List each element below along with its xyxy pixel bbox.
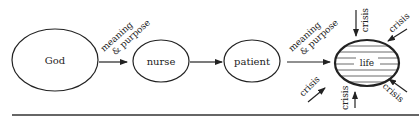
node-god: God [12, 29, 98, 91]
node-nurse: nurse [133, 40, 189, 82]
node-nurse-label: nurse [147, 56, 176, 67]
node-god-label: God [45, 55, 66, 66]
crisis-top-right: crisis [387, 11, 412, 41]
crisis-bottom: crisis [340, 85, 355, 110]
node-patient-label: patient [234, 56, 270, 67]
crisis-label: crisis [360, 8, 370, 33]
crisis-label: crisis [297, 74, 322, 99]
edge-label-patient-life: meaning & purpose [287, 10, 340, 61]
node-life-label: life [360, 58, 374, 68]
diagram-canvas: God meaning & purpose nurse patient mean… [0, 0, 419, 118]
crisis-label: crisis [387, 11, 412, 35]
crisis-bottom-right: crisis [381, 79, 407, 104]
node-patient: patient [224, 40, 280, 82]
node-life: life [330, 40, 405, 86]
crisis-top: crisis [356, 8, 370, 36]
crisis-label: crisis [340, 85, 350, 110]
crisis-bottom-left: crisis [297, 74, 325, 102]
crisis-label: crisis [381, 81, 406, 105]
edge-label-god-nurse: meaning & purpose [99, 10, 152, 61]
